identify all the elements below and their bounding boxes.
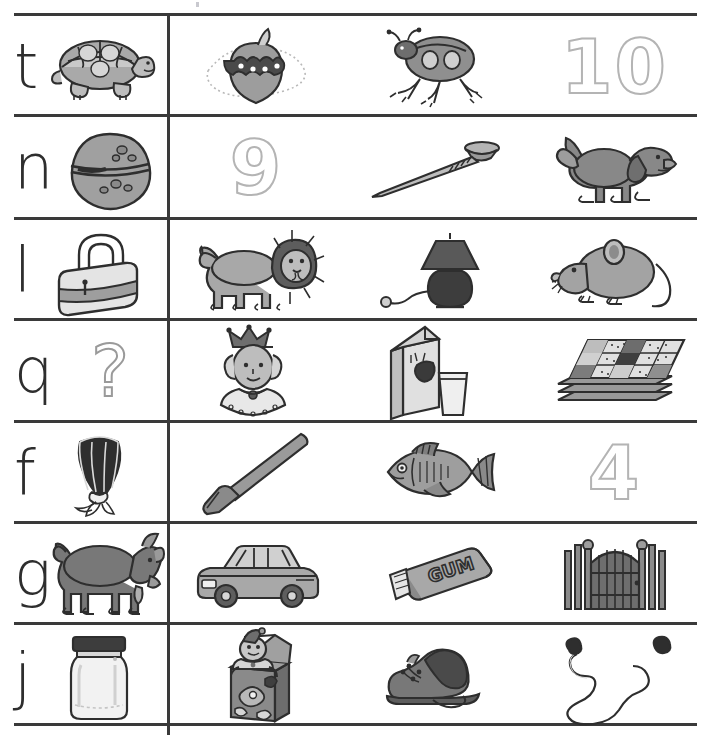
worksheet-sheet: t <box>0 0 704 735</box>
ladybug-icon <box>346 16 525 117</box>
jack-in-the-box-icon <box>167 625 346 726</box>
letter-cell-t: t <box>0 16 167 117</box>
worksheet-row-g: g <box>0 523 704 624</box>
letter-cell-n: n <box>0 117 167 218</box>
outline-symbol-label: ? <box>91 335 129 407</box>
letter-glyph-l: l <box>14 239 31 301</box>
nail-icon <box>346 117 525 218</box>
letter-glyph-t: t <box>14 36 38 98</box>
letter-cell-q: q ? <box>0 320 167 421</box>
fish-icon <box>346 422 525 523</box>
outline-number-label: 4 <box>588 436 642 510</box>
number-ten-outline: 10 <box>525 16 704 117</box>
number-four-outline: 4 <box>525 422 704 523</box>
apple-caterpillar-icon <box>167 16 346 117</box>
question-mark-outline: ? <box>53 320 167 421</box>
milk-carton-icon <box>346 320 525 421</box>
letter-glyph-n: n <box>14 137 53 199</box>
lion-icon <box>167 219 346 320</box>
picture-row-n: 9 <box>167 117 704 218</box>
fan-icon <box>36 422 167 523</box>
letter-cell-g: g <box>0 523 167 624</box>
picture-row-t: 10 <box>167 16 704 117</box>
lamp-icon <box>346 219 525 320</box>
lock-icon <box>31 219 167 320</box>
picture-row-q <box>167 320 704 421</box>
letter-cell-j: j <box>0 625 167 726</box>
picture-row-l <box>167 219 704 320</box>
dog-icon <box>525 117 704 218</box>
jar-icon <box>31 625 167 726</box>
picture-row-j <box>167 625 704 726</box>
mouse-icon <box>525 219 704 320</box>
letter-glyph-g: g <box>14 543 51 605</box>
picture-row-f: 4 <box>167 422 704 523</box>
worksheet-row-n: n 9 <box>0 117 704 218</box>
outline-number-label: 9 <box>230 131 284 205</box>
worksheet-row-t: t <box>0 16 704 117</box>
page-artifact-mark <box>196 2 199 7</box>
gate-icon <box>525 523 704 624</box>
picture-row-g: GUM <box>167 523 704 624</box>
outline-number-label: 10 <box>561 30 668 104</box>
gum-pack-icon: GUM <box>346 523 525 624</box>
worksheet-row-f: f <box>0 422 704 523</box>
goat-icon <box>51 523 167 624</box>
letter-glyph-j: j <box>14 645 31 707</box>
letter-glyph-f: f <box>14 442 36 504</box>
worksheet-row-j: j <box>0 625 704 726</box>
worksheet-row-l: l <box>0 219 704 320</box>
jump-rope-icon <box>525 625 704 726</box>
car-icon <box>167 523 346 624</box>
worksheet-row-q: q ? <box>0 320 704 421</box>
turtle-icon <box>38 16 167 117</box>
nut-icon <box>53 117 167 218</box>
letter-cell-f: f <box>0 422 167 523</box>
letter-cell-l: l <box>0 219 167 320</box>
letter-glyph-q: q <box>14 340 53 402</box>
shoe-icon <box>346 625 525 726</box>
hoe-icon <box>167 422 346 523</box>
quilt-icon <box>525 320 704 421</box>
number-nine-outline: 9 <box>167 117 346 218</box>
queen-icon <box>167 320 346 421</box>
